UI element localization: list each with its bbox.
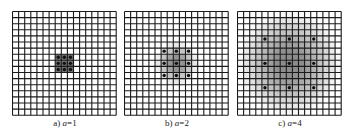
sample-point — [57, 62, 60, 65]
pixel-grid — [12, 11, 117, 116]
shaded-cell — [311, 97, 317, 103]
shaded-cell — [262, 97, 268, 103]
shaded-cell — [311, 30, 317, 36]
shaded-cell — [305, 91, 311, 97]
caption-value: =1 — [67, 118, 77, 128]
shaded-cell — [274, 91, 280, 97]
sample-point — [69, 62, 72, 65]
shaded-cell — [292, 60, 298, 66]
shaded-cell — [280, 79, 286, 85]
shaded-cell — [329, 42, 335, 48]
shaded-cell — [292, 103, 298, 109]
shaded-cell — [335, 73, 341, 79]
shaded-cell — [335, 48, 341, 54]
shaded-cell — [167, 54, 173, 60]
shaded-cell — [250, 60, 256, 66]
shaded-cell — [323, 85, 329, 91]
sample-point — [162, 62, 165, 65]
sample-point — [263, 86, 266, 89]
shaded-cell — [299, 103, 305, 109]
shaded-cell — [274, 48, 280, 54]
shaded-cell — [262, 30, 268, 36]
shaded-cell — [286, 97, 292, 103]
shaded-cell — [329, 36, 335, 42]
shaded-cell — [256, 48, 262, 54]
shaded-cell — [299, 66, 305, 72]
shaded-cell — [317, 85, 323, 91]
shaded-cell — [238, 60, 244, 66]
shaded-cell — [305, 42, 311, 48]
shaded-cell — [280, 42, 286, 48]
shaded-cell — [268, 30, 274, 36]
sample-point — [187, 74, 190, 77]
shaded-cell — [292, 79, 298, 85]
shaded-cell — [256, 73, 262, 79]
shaded-cell — [311, 24, 317, 30]
shaded-cell — [305, 36, 311, 42]
pixel-grid — [237, 11, 342, 116]
shaded-cell — [161, 54, 167, 60]
shaded-cell — [274, 24, 280, 30]
shaded-cell — [173, 66, 179, 72]
caption-prefix: b) — [165, 118, 175, 128]
shaded-cell — [167, 73, 173, 79]
shaded-cell — [167, 48, 173, 54]
shaded-cell — [317, 24, 323, 30]
shaded-cell — [268, 48, 274, 54]
shaded-cell — [250, 79, 256, 85]
shaded-cell — [268, 97, 274, 103]
shaded-cell — [323, 24, 329, 30]
shaded-cell — [256, 54, 262, 60]
shaded-cell — [299, 79, 305, 85]
shaded-cell — [268, 36, 274, 42]
sample-point — [69, 56, 72, 59]
shaded-cell — [274, 109, 280, 115]
shaded-cell — [173, 79, 179, 85]
shaded-cell — [238, 48, 244, 54]
shaded-cell — [268, 54, 274, 60]
shaded-cell — [186, 54, 192, 60]
shaded-cell — [256, 66, 262, 72]
shaded-cell — [311, 73, 317, 79]
shaded-cell — [173, 54, 179, 60]
shaded-cell — [280, 54, 286, 60]
shaded-cell — [299, 48, 305, 54]
shaded-cell — [280, 18, 286, 24]
shaded-cell — [250, 30, 256, 36]
shaded-cell — [274, 36, 280, 42]
shaded-cell — [192, 60, 198, 66]
shaded-cell — [274, 18, 280, 24]
shaded-cell — [244, 73, 250, 79]
shaded-cell — [299, 54, 305, 60]
shaded-cell — [268, 42, 274, 48]
sample-point — [187, 49, 190, 52]
shaded-cell — [268, 18, 274, 24]
shaded-cell — [186, 66, 192, 72]
shaded-cell — [179, 79, 185, 85]
shaded-cell — [280, 73, 286, 79]
shaded-cell — [262, 54, 268, 60]
shaded-cell — [238, 73, 244, 79]
shaded-cell — [305, 60, 311, 66]
shaded-cell — [292, 54, 298, 60]
shaded-cell — [256, 24, 262, 30]
shaded-cell — [250, 54, 256, 60]
shaded-cell — [323, 48, 329, 54]
shaded-cell — [299, 12, 305, 18]
sample-point — [187, 62, 190, 65]
shaded-cell — [299, 73, 305, 79]
shaded-cell — [274, 66, 280, 72]
shaded-cell — [280, 103, 286, 109]
shaded-cell — [311, 48, 317, 54]
caption-value: =2 — [179, 118, 189, 128]
shaded-cell — [292, 109, 298, 115]
shaded-cell — [244, 60, 250, 66]
shaded-cell — [292, 24, 298, 30]
shaded-cell — [317, 42, 323, 48]
shaded-cell — [329, 48, 335, 54]
shaded-cell — [268, 103, 274, 109]
shaded-cell — [323, 42, 329, 48]
shaded-cell — [299, 60, 305, 66]
shaded-cell — [268, 66, 274, 72]
shaded-cell — [238, 54, 244, 60]
